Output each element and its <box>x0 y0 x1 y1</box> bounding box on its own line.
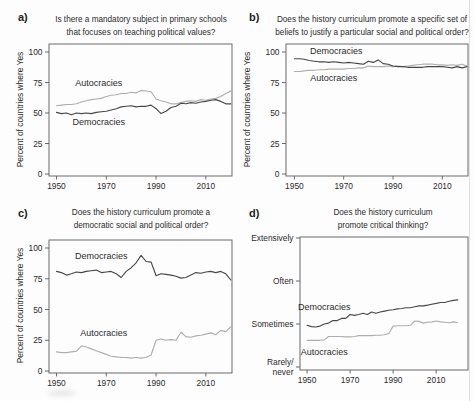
panel-c-y-tick-label: 0 <box>38 366 43 376</box>
panel-b-y-tick-label: 25 <box>270 139 280 149</box>
panel-d-y-tick-label: Often <box>273 276 294 286</box>
scan-artifact-smudge <box>48 390 76 396</box>
panel-c-x-tick-label: 1990 <box>147 378 166 388</box>
panel-a-x-tick-label: 1970 <box>97 181 116 191</box>
panel-a-y-tick-label: 0 <box>38 169 43 179</box>
panel-d-y-tick-label: Rarely/never <box>267 357 294 377</box>
panel-d-plot: 1950197019902010Rarely/neverSometimesOft… <box>251 233 468 385</box>
panel-a-x-tick-label: 2010 <box>197 181 216 191</box>
panel-a-y-tick-label: 75 <box>33 78 43 88</box>
series-label-democracies: Democracies <box>298 302 351 312</box>
series-label-autocracies: Autocracies <box>310 73 358 83</box>
panel-b-y-tick-label: 0 <box>275 169 280 179</box>
series-line-autocracies <box>294 64 467 71</box>
panel-d-y-tick-label: Extensively <box>251 233 294 243</box>
panel-c-x-tick-label: 1970 <box>97 378 116 388</box>
series-label-autocracies: Autocracies <box>75 78 123 88</box>
series-label-autocracies: Autocracies <box>301 347 349 357</box>
series-label-democracies: Democracies <box>75 251 128 261</box>
panel-a-plot: 19501970199020100255075100AutocraciesDem… <box>29 44 232 191</box>
panel-c-x-tick-label: 1950 <box>47 378 66 388</box>
panel-c-x-tick-label: 2010 <box>197 378 216 388</box>
panel-d-x-tick-label: 1970 <box>341 375 360 385</box>
panel-b-frame <box>286 44 468 176</box>
panel-b-y-tick-label: 50 <box>270 108 280 118</box>
panel-a-frame <box>49 44 232 176</box>
panel-b-x-tick-label: 1990 <box>384 181 403 191</box>
plots-canvas: 19501970199020100255075100AutocraciesDem… <box>0 0 475 401</box>
panel-c-y-tick-label: 75 <box>33 274 43 284</box>
panel-b-y-tick-label: 75 <box>270 78 280 88</box>
series-label-democracies: Democracies <box>310 46 363 56</box>
panel-a-y-tick-label: 50 <box>33 108 43 118</box>
panel-d-x-tick-label: 1990 <box>384 375 403 385</box>
panel-d-y-tick-label: Sometimes <box>252 319 294 329</box>
panel-b-x-tick-label: 2010 <box>433 181 452 191</box>
series-label-autocracies: Autocracies <box>80 328 128 338</box>
panel-a-x-tick-label: 1990 <box>147 181 166 191</box>
panel-d-x-tick-label: 1950 <box>298 375 317 385</box>
panel-c-y-tick-label: 100 <box>29 243 43 253</box>
scan-artifact-right-line <box>469 0 470 401</box>
panel-a-y-tick-label: 25 <box>33 139 43 149</box>
series-line-autocracies <box>57 90 231 105</box>
panel-c-y-tick-label: 25 <box>33 335 43 345</box>
series-label-democracies: Democracies <box>73 117 126 127</box>
panel-c-y-tick-label: 50 <box>33 305 43 315</box>
series-line-autocracies <box>307 321 458 340</box>
panel-b-y-tick-label: 100 <box>266 47 280 57</box>
panel-c-plot: 19501970199020100255075100AutocraciesDem… <box>29 240 232 388</box>
four-panel-figure: a) b) c) d) Is there a mandatory subject… <box>0 0 475 401</box>
panel-b-x-tick-label: 1950 <box>285 181 304 191</box>
panel-a-y-tick-label: 100 <box>29 47 43 57</box>
panel-d-x-tick-label: 2010 <box>427 375 446 385</box>
panel-b-x-tick-label: 1970 <box>334 181 353 191</box>
panel-a-x-tick-label: 1950 <box>47 181 66 191</box>
panel-b-plot: 19501970199020100255075100AutocraciesDem… <box>266 44 468 191</box>
